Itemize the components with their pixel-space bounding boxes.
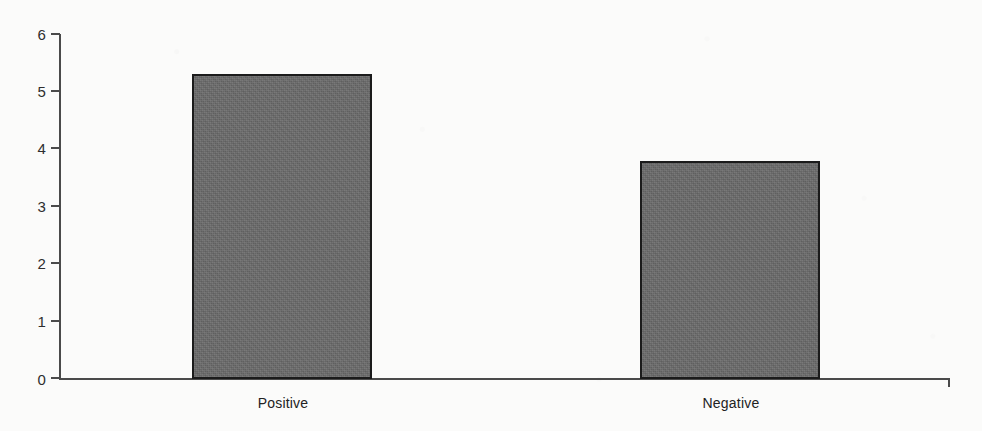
y-tick-mark-4 bbox=[51, 147, 60, 149]
y-axis-label-5: 5 bbox=[0, 84, 46, 99]
y-axis-line bbox=[59, 34, 61, 380]
y-tick-mark-2 bbox=[51, 262, 60, 264]
y-axis-label-4: 4 bbox=[0, 141, 46, 156]
y-tick-mark-6 bbox=[51, 33, 60, 35]
y-axis-label-2: 2 bbox=[0, 256, 46, 271]
y-axis-label-1: 1 bbox=[0, 314, 46, 329]
y-tick-mark-5 bbox=[51, 90, 60, 92]
bar-positive bbox=[192, 74, 372, 379]
y-axis-label-0: 0 bbox=[0, 372, 46, 387]
bar-chart: 0 1 2 3 4 5 6 Positive Negative bbox=[0, 0, 982, 431]
y-axis-label-3: 3 bbox=[0, 199, 46, 214]
category-label-positive: Positive bbox=[173, 396, 393, 410]
paper-texture-overlay bbox=[0, 0, 982, 431]
category-label-negative: Negative bbox=[621, 396, 841, 410]
x-axis-end-cap bbox=[948, 378, 950, 387]
y-tick-mark-0 bbox=[51, 377, 60, 379]
bar-negative bbox=[640, 161, 820, 380]
y-tick-mark-1 bbox=[51, 320, 60, 322]
y-tick-mark-3 bbox=[51, 205, 60, 207]
y-axis-label-6: 6 bbox=[0, 27, 46, 42]
